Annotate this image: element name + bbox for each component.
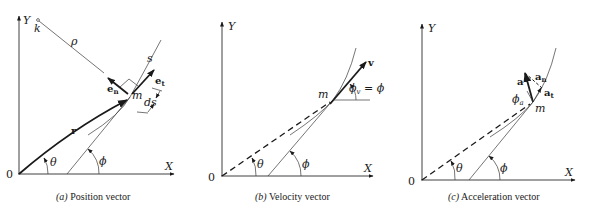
- tangential-accel-label: at: [544, 87, 554, 100]
- theta-arc: [451, 161, 455, 180]
- theta-arc: [252, 158, 256, 176]
- panel-c-acceleration-vector: Y X 0 a an at ϕa m θ ϕ (c) Acceleration …: [408, 22, 575, 203]
- theta-label: θ: [50, 156, 57, 169]
- tangent-line: [268, 100, 333, 176]
- phi-arc: [489, 156, 500, 180]
- phi-label: ϕ: [302, 158, 310, 171]
- y-axis-label: Y: [428, 22, 437, 35]
- ds-extension-lower: [137, 112, 148, 113]
- acceleration-label: a: [517, 76, 524, 87]
- center-of-curvature-label: k: [34, 22, 41, 35]
- velocity-label: v: [367, 57, 375, 68]
- right-angle-marker: [120, 79, 138, 87]
- caption-b: (b) Velocity vector: [255, 191, 330, 203]
- origin-label: 0: [408, 175, 415, 188]
- ds-extension-upper: [152, 88, 162, 91]
- center-of-curvature-point: [37, 19, 40, 22]
- caption-a: (a) Position vector: [56, 191, 131, 203]
- arc-element-label: ds: [144, 96, 157, 109]
- origin-label: 0: [6, 168, 13, 181]
- kinematics-figure: Y X 0 k ρ s r et en m ds θ ϕ: [0, 0, 596, 221]
- y-axis-label: Y: [23, 14, 32, 27]
- x-axis-label: X: [164, 160, 174, 173]
- tangential-component-arrow: [533, 88, 541, 102]
- unit-tangent-label: et: [155, 75, 165, 88]
- path-label: s: [147, 52, 153, 65]
- particle-label: m: [318, 88, 328, 101]
- position-vector-label: r: [71, 125, 77, 136]
- x-axis-label: X: [363, 162, 373, 175]
- particle-label: m: [132, 89, 142, 102]
- phi-label: ϕ: [500, 162, 508, 175]
- panel-a-position-vector: Y X 0 k ρ s r et en m ds θ ϕ: [6, 14, 174, 203]
- caption-c: (c) Acceleration vector: [448, 191, 540, 203]
- panel-b-velocity-vector: Y X 0 v ϕv = ϕ m θ ϕ (b) Velocity vector: [208, 20, 385, 203]
- normal-accel-label: an: [535, 71, 547, 84]
- position-vector-dashed: [222, 102, 330, 176]
- phi-arc: [290, 151, 301, 176]
- theta-label: θ: [456, 162, 463, 175]
- origin-label: 0: [208, 171, 215, 184]
- y-axis-label: Y: [228, 20, 237, 33]
- particle-label: m: [535, 102, 545, 115]
- phi-v-label: ϕv = ϕ: [349, 82, 385, 96]
- position-vector-arrow: [19, 100, 127, 174]
- phi-label: ϕ: [99, 155, 107, 168]
- theta-arc: [44, 158, 48, 174]
- position-vector-dashed: [422, 104, 530, 180]
- theta-label: θ: [257, 158, 264, 171]
- acceleration-vector-arrow: [525, 73, 533, 102]
- x-axis-label: X: [564, 166, 574, 179]
- phi-arc: [88, 149, 99, 174]
- phi-a-label: ϕa: [512, 93, 524, 107]
- radius-label: ρ: [70, 35, 78, 48]
